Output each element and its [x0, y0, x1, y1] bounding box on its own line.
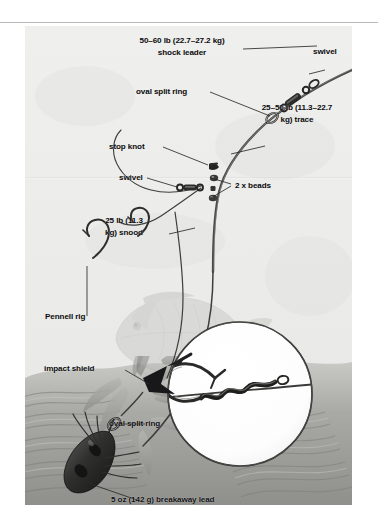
header-divider: [0, 22, 378, 23]
oval-split-ring-bottom-label: oval split ring: [109, 418, 160, 430]
swivel-top-label: swivel: [313, 46, 337, 58]
beads-label: 2 x beads: [235, 180, 271, 192]
impact-shield-label: impact shield: [44, 363, 94, 375]
oval-split-ring-top-label: oval split ring: [136, 86, 187, 98]
trace-label: 25–50 lb (11.3–22.7 kg) trace: [247, 102, 347, 125]
stop-knot-label: stop knot: [109, 141, 145, 153]
shock-leader-label: 50–60 lb (22.7–27.2 kg) shock leader: [122, 35, 242, 58]
rig-illustration: [25, 26, 352, 505]
snood-label: 25 lb (11.3 kg) snood: [74, 215, 174, 238]
pennell-rig-label: Pennell rig: [45, 311, 85, 323]
diagram-photo-plate: 50–60 lb (22.7–27.2 kg) shock leader swi…: [25, 26, 352, 505]
swivel-mid-label: swivel: [119, 172, 143, 184]
breakaway-lead-label: 5 oz (142 g) breakaway lead: [111, 494, 214, 505]
page-root: 50–60 lb (22.7–27.2 kg) shock leader swi…: [0, 0, 378, 525]
bead-lower: [209, 195, 217, 201]
